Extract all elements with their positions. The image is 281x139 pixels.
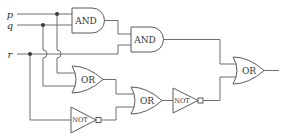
inverter-bubble-1 [96, 118, 101, 123]
junction-dot-r [28, 52, 32, 56]
svg-text:OR: OR [242, 66, 256, 76]
input-label-r: r [8, 49, 14, 60]
svg-text:AND: AND [133, 35, 156, 45]
input-label-p: p [7, 9, 14, 20]
svg-text:OR: OR [81, 75, 95, 85]
or-gate-1: OR [72, 66, 103, 93]
junction-dot-p [55, 12, 59, 16]
svg-text:NOT: NOT [174, 97, 190, 105]
junction-dot-q [41, 23, 45, 27]
wire-not1-to-or2 [101, 107, 134, 120]
wire-p [17, 12, 76, 73]
or-gate-3: OR [233, 57, 264, 84]
svg-text:AND: AND [74, 16, 97, 26]
wire-and2-to-or3 [164, 40, 237, 65]
inverter-bubble-2 [198, 98, 203, 103]
logic-circuit-diagram: p q r AND AND OR N [0, 0, 281, 139]
and-gate-2: AND [131, 27, 164, 52]
wire-and1-to-and2 [105, 21, 132, 35]
svg-text:NOT: NOT [72, 116, 88, 124]
wire-or1-to-or2 [103, 80, 134, 95]
or-gate-2: OR [131, 87, 162, 114]
wire-not2-to-or3 [203, 77, 236, 101]
svg-text:OR: OR [140, 96, 154, 106]
not-gate-2: NOT [173, 88, 203, 113]
input-label-q: q [7, 20, 13, 31]
not-gate-1: NOT [71, 107, 101, 133]
and-gate-1: AND [72, 8, 104, 33]
